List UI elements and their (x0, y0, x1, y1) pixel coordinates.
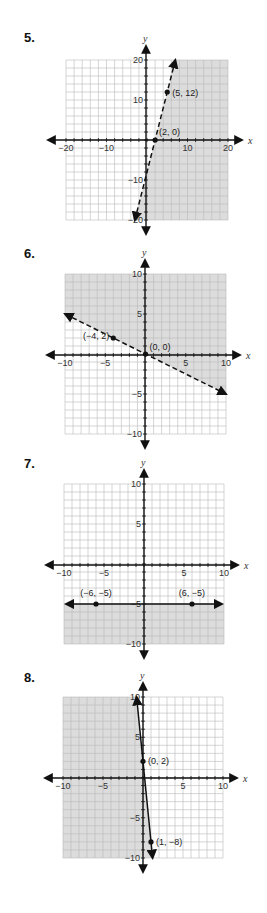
y-tick-label: −10 (127, 429, 142, 439)
x-tick-label: 10 (182, 143, 192, 153)
y-tick-label: −10 (125, 853, 140, 863)
y-tick-label: 5 (136, 519, 141, 529)
y-tick-label: 20 (133, 55, 143, 65)
y-tick-label: 5 (135, 732, 140, 742)
y-tick-label: 10 (131, 479, 141, 489)
data-point (153, 137, 158, 142)
data-point (143, 351, 148, 356)
point-label: (6, −5) (179, 588, 205, 598)
y-tick-label: 5 (137, 309, 142, 319)
point-label: (0, 2) (148, 756, 169, 766)
graph-6: xy−10−5510105−5−10(−4, 2)(0, 0) (47, 247, 251, 448)
x-tick-label: −10 (56, 568, 71, 578)
data-point (148, 839, 153, 844)
x-tick-label: 20 (223, 143, 233, 153)
x-tick-label: 10 (218, 781, 228, 791)
y-tick-label: −5 (130, 813, 140, 823)
x-axis-label: x (243, 560, 249, 571)
y-tick-label: 10 (130, 692, 140, 702)
data-point (140, 759, 145, 764)
x-tick-label: 10 (219, 568, 229, 578)
graph-5: xy−20−1010202010−10−20(2, 0)(5, 12) (48, 33, 253, 234)
x-tick-label: −10 (57, 358, 72, 368)
x-tick-label: 10 (221, 358, 231, 368)
data-point (165, 89, 170, 94)
graphs-svg: xy−20−1010202010−10−20(2, 0)(5, 12)xy−10… (0, 0, 267, 913)
data-point (111, 335, 116, 340)
x-axis-label: x (245, 350, 251, 361)
x-tick-label: −5 (98, 781, 108, 791)
x-tick-label: −10 (55, 781, 70, 791)
x-tick-label: −20 (58, 143, 73, 153)
x-axis-label: x (247, 135, 253, 146)
x-tick-label: −5 (99, 568, 109, 578)
y-tick-label: −10 (128, 175, 143, 185)
graph-7: xy−10−5510105−5−10(−6, −5)(6, −5) (46, 457, 249, 658)
point-label: (1, −8) (156, 837, 182, 847)
y-axis-label: y (139, 670, 145, 681)
x-tick-label: −5 (100, 358, 110, 368)
y-axis-label: y (140, 457, 146, 468)
x-axis-label: x (242, 773, 248, 784)
y-tick-label: −5 (132, 389, 142, 399)
y-axis-label: y (142, 33, 148, 44)
point-label: (2, 0) (159, 127, 180, 137)
data-point (189, 601, 194, 606)
x-tick-label: 5 (180, 781, 185, 791)
data-point (93, 601, 98, 606)
point-label: (−4, 2) (83, 331, 109, 341)
graph-8: xy−10−5510105−5−10(0, 2)(1, −8) (45, 670, 248, 872)
point-label: (5, 12) (172, 88, 198, 98)
x-tick-label: 5 (181, 568, 186, 578)
x-tick-label: 5 (183, 358, 188, 368)
y-tick-label: 10 (132, 269, 142, 279)
x-tick-label: −10 (99, 143, 114, 153)
point-label: (−6, −5) (80, 588, 112, 598)
y-axis-label: y (141, 247, 147, 258)
y-tick-label: 10 (133, 95, 143, 105)
y-tick-label: −10 (126, 639, 141, 649)
point-label: (0, 0) (150, 342, 171, 352)
